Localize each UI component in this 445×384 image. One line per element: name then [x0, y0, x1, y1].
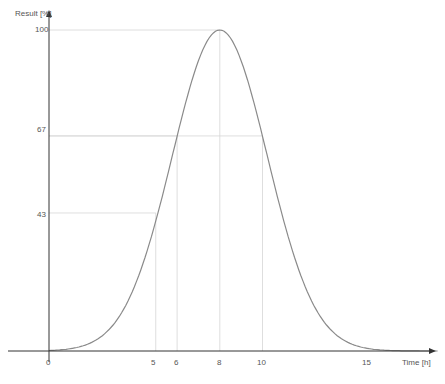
result-curve: [49, 30, 438, 351]
y-tick-67: 67: [37, 125, 46, 134]
x-tick-0: 0: [46, 358, 51, 367]
x-tick-8: 8: [217, 358, 222, 367]
x-tick-6: 6: [174, 358, 179, 367]
x-axis-arrow-icon: [429, 348, 436, 354]
y-axis-label: Result [%]: [15, 9, 51, 18]
x-tick-15: 15: [362, 358, 371, 367]
guide-lines: [49, 30, 263, 351]
y-tick-100: 100: [35, 25, 49, 34]
y-tick-43: 43: [37, 210, 46, 219]
x-tick-10: 10: [257, 358, 266, 367]
x-tick-5: 5: [151, 358, 156, 367]
x-axis-label: Time [h]: [402, 358, 431, 367]
chart: Result [%] Time [h] 100 67 43 0 5 6 8 10…: [0, 0, 445, 384]
